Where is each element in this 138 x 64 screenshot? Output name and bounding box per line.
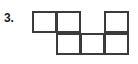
grid-cell-top-2 — [56, 11, 81, 33]
grid-cell-top-3-empty — [80, 11, 105, 33]
grid-cell-top-4 — [104, 11, 129, 33]
grid-cell-top-1 — [32, 11, 57, 33]
grid-cell-bottom-1-empty — [32, 33, 57, 55]
grid-row-top — [32, 11, 130, 33]
figure-container: 3. — [0, 0, 138, 64]
grid-cell-bottom-3 — [80, 33, 105, 55]
grid-cell-bottom-2 — [56, 33, 81, 55]
grid-cell-bottom-4 — [104, 33, 129, 55]
polyomino-grid — [32, 11, 130, 55]
problem-number-label: 3. — [4, 11, 14, 25]
grid-row-bottom — [32, 33, 130, 55]
